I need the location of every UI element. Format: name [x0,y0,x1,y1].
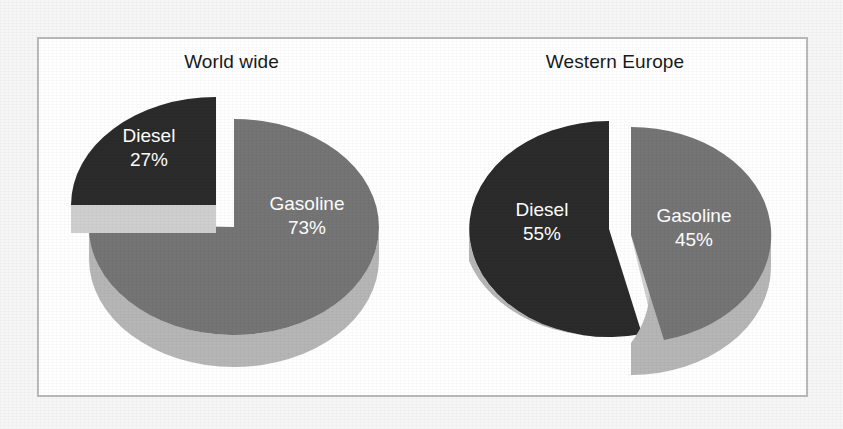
pie-chart-world-wide: Gasoline 73% Diesel 27% [39,69,424,397]
pie-panel-western-europe: Western Europe Diesel 55% [424,39,806,395]
pie-label-diesel-world: Diesel [123,125,176,146]
pie-label-gasoline-world: Gasoline [270,193,345,214]
pie-label-gasoline-europe: Gasoline [657,205,732,226]
chart-title-world-wide: World wide [39,51,424,73]
pie-value-gasoline-world: 73% [288,217,326,238]
pie-value-diesel-europe: 55% [523,223,561,244]
pie-panel-world-wide: World wide Gasoline 73% [39,39,424,395]
pie-value-gasoline-europe: 45% [675,229,713,250]
pie-slice-diesel-europe: Diesel 55% [469,121,642,337]
pie-chart-western-europe: Diesel 55% Gasoline 45% [424,69,806,397]
figure-canvas: World wide Gasoline 73% [0,0,843,429]
pie-slice-diesel-world: Diesel 27% [71,97,216,233]
pie-slice-gasoline-europe: Gasoline 45% [631,127,771,375]
figure-frame: World wide Gasoline 73% [37,37,808,397]
chart-title-western-europe: Western Europe [424,51,806,73]
pie-slice-diesel-world-side [71,205,216,233]
pie-value-diesel-world: 27% [130,149,168,170]
pie-label-diesel-europe: Diesel [516,199,569,220]
